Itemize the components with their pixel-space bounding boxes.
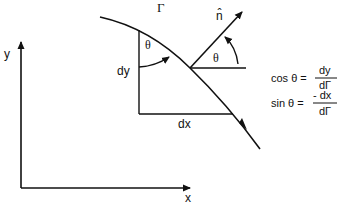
theta-arc-normal <box>225 37 238 64</box>
y-axis-label: y <box>4 47 10 61</box>
sin-denominator: dΓ <box>319 105 331 117</box>
curve-direction-arrow <box>239 118 247 130</box>
dy-label: dy <box>117 64 130 78</box>
theta-label-normal: θ <box>213 51 219 65</box>
sin-equation: sin θ = - dx dΓ <box>271 89 337 117</box>
normal-label: n̂ <box>216 8 223 23</box>
cos-numerator: dy <box>319 64 331 76</box>
theta-label-dy: θ <box>145 38 151 52</box>
dx-label: dx <box>178 117 191 131</box>
theta-arc-dy <box>139 57 169 67</box>
cos-lhs: cos θ = <box>271 72 307 84</box>
x-axis-label: x <box>185 191 191 205</box>
cos-equation: cos θ = dy dΓ <box>271 64 337 91</box>
curve-gamma-label: Γ <box>157 0 165 15</box>
diagram: y x Γ dy dx θ n̂ θ cos θ = dy dΓ sin θ =… <box>0 0 342 207</box>
diagram-canvas: y x Γ dy dx θ n̂ θ cos θ = dy dΓ sin θ =… <box>0 0 342 207</box>
sin-lhs: sin θ = <box>271 97 304 109</box>
sin-numerator: - dx <box>313 89 332 101</box>
